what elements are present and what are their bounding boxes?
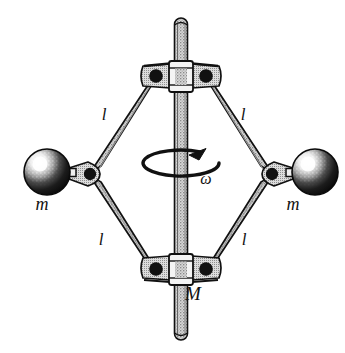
bottom-hub-right-pivot-pin: [200, 263, 212, 275]
top-hub-shaft-window: [175, 69, 187, 86]
left-knuckle-pivot-pin: [84, 168, 95, 179]
bottom-hub-assembly: [141, 254, 221, 285]
left-mass-sphere: [24, 149, 70, 195]
left-sphere-speckle-highlight: [25, 150, 69, 194]
top-hub-right-pivot-pin: [200, 70, 212, 82]
right-knuckle-pivot-pin: [266, 168, 277, 179]
arm-upper-right-shade: [204, 73, 263, 169]
right-sphere-speckle-highlight: [293, 150, 337, 194]
label-angular-velocity-omega: ω: [200, 170, 211, 187]
label-arm-upper-right: l: [241, 105, 246, 124]
centrifugal-governor-diagram: l l l l m m M ω: [0, 0, 345, 353]
top-hub-assembly: [141, 61, 221, 92]
label-arm-upper-left: l: [102, 105, 107, 124]
left-sphere-specular: [33, 157, 48, 172]
bottom-hub-left-pivot-pin: [150, 263, 162, 275]
top-hub-left-pivot-pin: [150, 70, 162, 82]
label-sliding-collar-M: M: [184, 283, 202, 304]
label-arm-lower-right: l: [242, 230, 247, 249]
label-arm-lower-left: l: [99, 230, 104, 249]
bottom-hub-shaft-window: [175, 262, 187, 279]
figure-root: l l l l m m M ω: [0, 0, 345, 353]
right-mass-sphere: [292, 149, 338, 195]
label-mass-right: m: [287, 194, 300, 214]
right-sphere-specular: [301, 157, 316, 172]
label-mass-left: m: [36, 194, 49, 214]
